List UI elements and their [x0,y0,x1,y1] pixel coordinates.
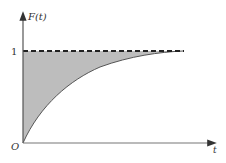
asymptote-tick-label: 1 [11,46,17,57]
y-axis-label: F(t) [27,11,47,22]
shaded-region [23,51,183,143]
x-axis-label: t [213,145,217,155]
distribution-function-diagram: F(t) 1 O t [0,0,226,163]
origin-label: O [11,141,19,152]
